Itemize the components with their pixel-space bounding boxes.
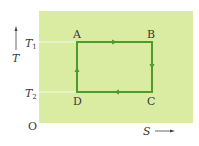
cycle-rectangle [77,42,152,92]
s-axis-arrow-icon [170,130,175,133]
t-axis-arrow-icon [15,26,18,31]
t1-tick-label: T1 [25,38,37,53]
arrow-left-icon [114,90,119,95]
point-b-label: B [147,29,155,40]
s-axis-label: S [143,126,151,137]
arrow-right-icon [112,40,117,45]
point-c-label: C [147,96,155,107]
t2-tick-label: T2 [25,88,37,103]
arrow-up-icon [75,67,80,72]
point-d-label: D [73,96,82,107]
t-axis-label: T [12,53,19,64]
origin-label: O [28,121,37,132]
point-a-label: A [73,29,81,40]
arrow-down-icon [150,64,155,69]
t1-subscript: 1 [32,43,36,51]
t2-subscript: 2 [32,93,36,101]
